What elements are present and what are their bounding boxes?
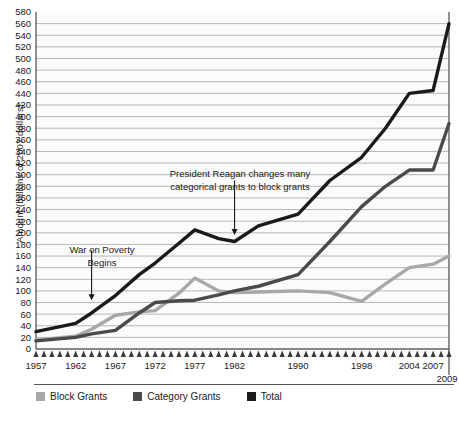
y-axis-tick-label: 0	[26, 343, 31, 354]
y-axis-tick-label: 140	[15, 262, 31, 273]
x-axis-tick-marker	[311, 351, 316, 358]
x-axis-tick-marker	[256, 351, 261, 358]
y-axis-tick-label: 240	[15, 204, 31, 215]
x-axis-tick-label: 1957	[25, 360, 46, 371]
x-axis-tick-marker	[145, 351, 150, 358]
x-axis-tick-marker	[407, 351, 412, 358]
x-axis-tick-marker	[113, 351, 118, 358]
y-axis-tick-label: 420	[15, 99, 31, 110]
y-axis-tick-label: 160	[15, 250, 31, 261]
x-axis-tick-marker	[431, 351, 436, 358]
x-axis-tick-marker	[446, 351, 451, 358]
y-axis-tick-label: 100	[15, 285, 31, 296]
x-axis-tick-label: 2007	[423, 360, 444, 371]
x-axis-tick-marker	[208, 351, 213, 358]
x-axis-tick-marker	[184, 351, 189, 358]
x-axis-tick-marker	[391, 351, 396, 358]
y-axis-tick-label: 480	[15, 65, 31, 76]
legend-divider	[34, 384, 454, 385]
x-axis-tick-marker	[121, 351, 126, 358]
y-axis-tick-label: 560	[15, 18, 31, 29]
legend-label: Total	[261, 391, 282, 402]
annotation-war-on-poverty: War on Poverty Begins	[46, 244, 158, 269]
legend-item: Total	[247, 391, 282, 402]
x-axis-tick-label: 1977	[184, 360, 205, 371]
x-axis-tick-marker	[41, 351, 46, 358]
x-axis-tick-label: 1998	[351, 360, 372, 371]
x-axis-tick-marker	[288, 351, 293, 358]
x-axis-tick-marker	[319, 351, 324, 358]
x-axis-tick-marker	[81, 351, 86, 358]
y-axis-tick-label: 440	[15, 88, 31, 99]
x-axis-tick-marker	[335, 351, 340, 358]
y-axis-tick-label: 520	[15, 41, 31, 52]
x-axis-tick-marker	[240, 351, 245, 358]
x-axis-tick-marker	[89, 351, 94, 358]
x-axis-tick-marker	[438, 351, 443, 358]
x-axis-tick-marker	[359, 351, 364, 358]
y-axis-tick-label: 20	[20, 332, 31, 343]
x-axis-tick-marker	[383, 351, 388, 358]
chart-legend: Block GrantsCategory GrantsTotal	[36, 391, 282, 402]
x-axis-tick-marker	[224, 351, 229, 358]
legend-swatch-icon	[247, 392, 256, 401]
y-axis-tick-label: 460	[15, 76, 31, 87]
y-axis-tick-label: 260	[15, 192, 31, 203]
y-axis-tick-label: 120	[15, 274, 31, 285]
y-axis-tick-label: 360	[15, 134, 31, 145]
y-axis-tick-label: 380	[15, 123, 31, 134]
x-axis-tick-marker	[97, 351, 102, 358]
x-axis-tick-marker	[33, 351, 38, 358]
x-axis-tick-marker	[367, 351, 372, 358]
x-axis-tick-marker	[65, 351, 70, 358]
x-axis-tick-label: 2004	[399, 360, 420, 371]
legend-label: Block Grants	[50, 391, 107, 402]
y-axis-tick-label: 340	[15, 146, 31, 157]
y-axis-tick-label: 580	[15, 6, 31, 17]
x-axis-tick-marker	[160, 351, 165, 358]
y-axis-tick-label: 280	[15, 181, 31, 192]
x-axis-tick-label: 1967	[105, 360, 126, 371]
x-axis-tick-marker	[423, 351, 428, 358]
x-axis-tick-marker	[280, 351, 285, 358]
legend-swatch-icon	[36, 392, 45, 401]
x-axis-tick-marker	[200, 351, 205, 358]
x-axis-tick-marker	[73, 351, 78, 358]
annotation-reagan-block-grants: President Reagan changes many categorica…	[152, 168, 328, 193]
y-axis-tick-label: 220	[15, 216, 31, 227]
legend-label: Category Grants	[147, 391, 220, 402]
x-axis-tick-marker	[105, 351, 110, 358]
x-axis-tick-marker	[137, 351, 142, 358]
y-axis-tick-label: 540	[15, 30, 31, 41]
legend-item: Category Grants	[133, 391, 220, 402]
x-axis-tick-marker	[153, 351, 158, 358]
y-axis-tick-label: 300	[15, 169, 31, 180]
x-axis-tick-label: 1982	[224, 360, 245, 371]
x-axis-tick-label: 1990	[288, 360, 309, 371]
x-axis-tick-marker	[216, 351, 221, 358]
x-axis-tick-marker	[295, 351, 300, 358]
y-axis-tick-label: 180	[15, 239, 31, 250]
x-axis-tick-marker	[399, 351, 404, 358]
x-axis-tick-marker	[232, 351, 237, 358]
x-axis-tick-marker	[57, 351, 62, 358]
legend-item: Block Grants	[36, 391, 107, 402]
x-axis-tick-marker	[327, 351, 332, 358]
y-axis-tick-label: 500	[15, 53, 31, 64]
x-axis-tick-marker	[264, 351, 269, 358]
x-axis-tick-marker	[272, 351, 277, 358]
x-axis-tick-marker	[303, 351, 308, 358]
x-axis-tick-marker	[248, 351, 253, 358]
chart-container: Amount (billions of 2007 dollars) 020406…	[0, 0, 459, 427]
y-axis-tick-label: 40	[20, 320, 31, 331]
y-axis-tick-label: 320	[15, 157, 31, 168]
x-axis-tick-marker	[351, 351, 356, 358]
y-axis-tick-label: 200	[15, 227, 31, 238]
line-chart-plot: 0204060801001201401601802002202402602803…	[0, 0, 459, 390]
x-axis-tick-marker	[176, 351, 181, 358]
legend-swatch-icon	[133, 392, 142, 401]
x-axis-end-year-label: 2009	[436, 373, 457, 384]
y-axis-tick-label: 60	[20, 309, 31, 320]
x-axis-tick-label: 1962	[65, 360, 86, 371]
y-axis-tick-label: 400	[15, 111, 31, 122]
